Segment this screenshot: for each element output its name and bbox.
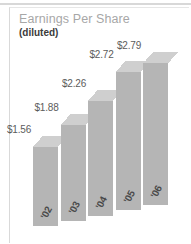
bar-value-label: $1.88	[35, 102, 59, 113]
bar-value-label: $2.26	[62, 78, 86, 89]
bar-06	[143, 52, 178, 205]
bar-value-label: $2.72	[90, 49, 114, 60]
bar-value-label: $2.79	[117, 40, 141, 51]
bar-face	[143, 52, 178, 63]
bar-value-label: $1.56	[7, 124, 31, 135]
